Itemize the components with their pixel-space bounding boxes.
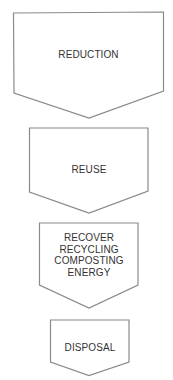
step-label-disposal: DISPOSAL [50, 342, 130, 354]
step-label-reduction: REDUCTION [13, 49, 164, 61]
step-label-line: REDUCTION [13, 49, 164, 61]
step-label-recover: RECOVER RECYCLING COMPOSTING ENERGY [39, 232, 139, 278]
step-label-line: RECYCLING [39, 244, 139, 256]
step-label-reuse: REUSE [29, 164, 149, 176]
step-label-line: ENERGY [39, 267, 139, 279]
step-label-line: DISPOSAL [50, 342, 130, 354]
step-label-line: REUSE [29, 164, 149, 176]
step-label-line: RECOVER [39, 232, 139, 244]
step-label-line: COMPOSTING [39, 255, 139, 267]
step-shape-reduction [14, 12, 164, 118]
